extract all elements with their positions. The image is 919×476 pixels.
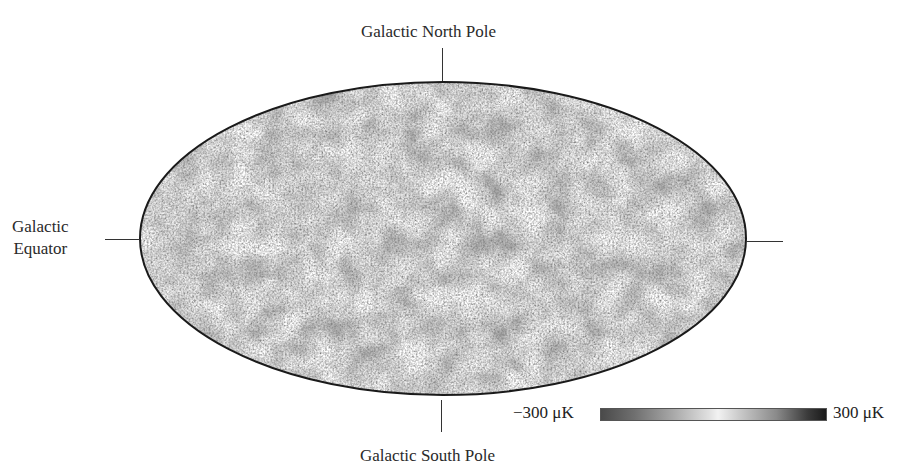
equator-label-line2: Equator bbox=[12, 238, 69, 260]
equator-west-tick bbox=[105, 239, 140, 240]
equator-east-tick bbox=[746, 241, 783, 242]
south-pole-label: Galactic South Pole bbox=[360, 446, 495, 466]
sky-map bbox=[0, 0, 919, 476]
south-pole-tick bbox=[441, 400, 442, 432]
colorbar-max-label: 300 μK bbox=[833, 403, 884, 423]
north-pole-label: Galactic North Pole bbox=[361, 22, 496, 42]
equator-label-line1: Galactic bbox=[12, 216, 69, 238]
colorbar-min-label: −300 μK bbox=[513, 403, 574, 423]
equator-label: Galactic Equator bbox=[12, 216, 69, 260]
colorbar bbox=[600, 408, 827, 421]
north-pole-tick bbox=[442, 48, 443, 81]
sky-map-fill bbox=[140, 82, 746, 395]
